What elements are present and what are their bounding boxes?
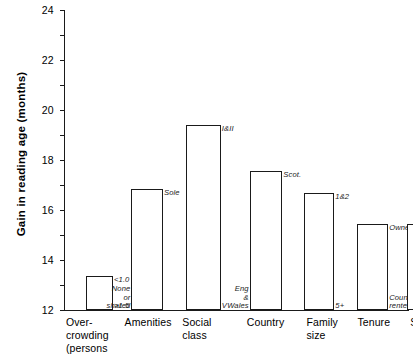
y-tick: 22: [60, 35, 65, 36]
y-tick: 4: [60, 260, 65, 261]
bar-chart: Gain in reading age (months) 02468101214…: [0, 0, 413, 356]
bar-top-annotation: I&II: [222, 125, 234, 133]
y-tick: 10: [60, 185, 65, 186]
bar-bottom-annotation: Eng & Wales: [227, 285, 248, 310]
bar: 1&25+: [304, 193, 335, 311]
y-tick: 12: [60, 160, 65, 161]
y-tick: 2: [60, 285, 65, 286]
bar-top-annotation: Sole: [164, 189, 180, 197]
x-category-label: Amenities: [125, 316, 172, 329]
bar-bottom-annotation: 5+: [335, 302, 344, 310]
y-tick: 0: [60, 310, 65, 311]
y-tick-label: 24: [42, 5, 54, 16]
y-tick-label: 20: [42, 105, 54, 116]
y-tick: 14: [60, 135, 65, 136]
bar: GirlsBoys: [407, 224, 413, 310]
x-category-label: Country: [247, 316, 284, 329]
y-tick-label: 12: [42, 305, 54, 316]
y-tick-label: 22: [42, 55, 54, 66]
y-axis-title: Gain in reading age (months): [15, 39, 27, 269]
x-category-label: Social class: [182, 316, 211, 342]
y-tick: 20: [60, 60, 65, 61]
x-axis-line: [64, 310, 409, 311]
x-category-label: Family size: [306, 316, 338, 342]
y-tick-label: 16: [42, 205, 54, 216]
bar-top-annotation: 1&2: [335, 193, 349, 201]
bar-top-annotation: <1.0: [114, 276, 129, 284]
bar: Scot.Eng & Wales: [250, 171, 283, 310]
bar: SoleNone or shared: [131, 189, 163, 310]
y-tick: 18: [60, 85, 65, 86]
y-tick: 6: [60, 235, 65, 236]
y-tick-label: 18: [42, 155, 54, 166]
bar: OwnedCouncil rented: [357, 224, 388, 310]
bar: I&IIV: [186, 125, 221, 310]
y-tick-label: 14: [42, 255, 54, 266]
x-category-label: Tenure: [357, 316, 390, 329]
bar-bottom-annotation: V: [222, 302, 227, 310]
y-tick: 16: [60, 110, 65, 111]
y-tick: 8: [60, 210, 65, 211]
plot-area: 024681012141618202224 <1.0>1.5SoleNone o…: [64, 10, 409, 311]
bar-top-annotation: Scot.: [283, 171, 301, 179]
y-tick: 24: [60, 10, 65, 11]
x-category-label: Over- crowding (persons per room): [66, 316, 112, 356]
bar-bottom-annotation: None or shared: [107, 285, 131, 310]
